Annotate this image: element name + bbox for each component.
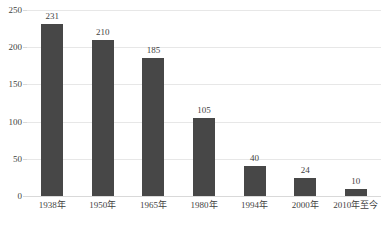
- bar-value-label: 185: [147, 46, 161, 55]
- x-axis-category-label: 1965年: [140, 200, 167, 211]
- x-axis-category-label: 2000年: [292, 200, 319, 211]
- bar-chart: 050100150200250 231210185105402410 1938年…: [0, 0, 385, 229]
- x-axis: 1938年1950年1965年1980年1994年2000年2010年至今: [27, 200, 381, 220]
- bar-value-label: 231: [46, 12, 60, 21]
- y-axis-tick-label: 250: [0, 6, 22, 15]
- bar-slot: 185: [128, 10, 179, 196]
- y-axis-tick-mark: [23, 196, 27, 197]
- bar-slot: 10: [330, 10, 381, 196]
- y-axis-tick-label: 150: [0, 80, 22, 89]
- y-axis-tick-label: 100: [0, 118, 22, 127]
- bar-value-label: 24: [301, 166, 310, 175]
- x-axis-category-label: 1938年: [39, 200, 66, 211]
- bar-slot: 40: [229, 10, 280, 196]
- x-axis-category-label: 1980年: [191, 200, 218, 211]
- bar[interactable]: [244, 166, 266, 196]
- bar[interactable]: [142, 58, 164, 196]
- bar-slot: 105: [179, 10, 230, 196]
- bar-value-label: 105: [197, 106, 211, 115]
- bar-slot: 231: [27, 10, 78, 196]
- y-axis-tick-label: 200: [0, 43, 22, 52]
- bar-slot: 24: [280, 10, 331, 196]
- bar[interactable]: [294, 178, 316, 196]
- bar-value-label: 210: [96, 28, 110, 37]
- bar-value-label: 10: [351, 177, 360, 186]
- bar[interactable]: [92, 40, 114, 196]
- axis-baseline: [27, 196, 381, 197]
- y-axis-tick-label: 0: [0, 192, 22, 201]
- bar-slot: 210: [78, 10, 129, 196]
- bar-value-label: 40: [250, 154, 259, 163]
- bar[interactable]: [345, 189, 367, 196]
- bars-layer: 231210185105402410: [27, 10, 381, 196]
- x-axis-category-label: 1950年: [89, 200, 116, 211]
- bar[interactable]: [41, 24, 63, 196]
- bar[interactable]: [193, 118, 215, 196]
- x-axis-category-label: 1994年: [241, 200, 268, 211]
- x-axis-category-label: 2010年至今: [333, 200, 378, 211]
- y-axis-tick-label: 50: [0, 155, 22, 164]
